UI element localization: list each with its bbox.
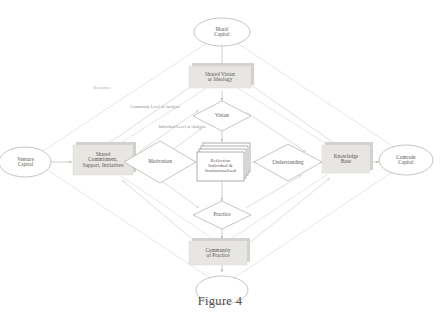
node-understanding[interactable]: Understanding xyxy=(260,156,316,169)
node-comrade-capital-line2: Capital xyxy=(396,160,415,166)
annotation-community-level: Community Level of Analysis xyxy=(124,105,186,109)
node-practice[interactable]: Practice xyxy=(197,208,247,222)
annotation-individual-level-line1: Individual Level xyxy=(158,125,185,129)
node-comrade-capital[interactable]: Comrade Capital xyxy=(379,146,433,174)
node-community-of-practice[interactable]: Community of Practice xyxy=(189,241,247,265)
node-shared-commitment-line3: Support, Initiatives xyxy=(82,163,123,169)
node-vision[interactable]: Vision xyxy=(197,109,247,123)
node-motivation-label: Motivation xyxy=(148,159,172,165)
annotation-individual-level-line2: of Analysis xyxy=(187,125,206,129)
diagram-canvas: Moral Capital Shared Vision or Ideology … xyxy=(0,0,440,326)
node-reflection-line3: Institutionalized xyxy=(205,169,236,174)
annotation-resources-label: Resources xyxy=(94,86,111,90)
annotation-community-level-line1: Community Level xyxy=(130,105,160,109)
node-venture-capital[interactable]: Venture Capital xyxy=(0,148,51,176)
node-knowledge-base-line2: Base xyxy=(334,159,358,165)
node-understanding-label: Understanding xyxy=(272,160,303,166)
node-reflection[interactable]: Reflection Individual & Institutionalize… xyxy=(197,152,244,181)
node-venture-capital-line2: Capital xyxy=(17,162,34,168)
node-knowledge-base[interactable]: Knowledge Base xyxy=(322,145,370,173)
annotation-individual-level: Individual Level of Analysis xyxy=(152,125,212,129)
figure-caption: Figure 4 xyxy=(0,294,440,309)
node-shared-commitment[interactable]: Shared Commitment, Support, Initiatives xyxy=(73,145,133,175)
node-shared-vision[interactable]: Shared Vision or Ideology xyxy=(189,66,251,88)
annotation-resources: Resources xyxy=(78,86,126,90)
annotation-community-level-line2: of Analysis xyxy=(161,105,180,109)
node-practice-label: Practice xyxy=(213,212,230,218)
node-vision-label: Vision xyxy=(215,113,229,119)
node-motivation[interactable]: Motivation xyxy=(135,155,185,169)
node-moral-capital[interactable]: Moral Capital xyxy=(194,18,250,46)
node-moral-capital-line2: Capital xyxy=(214,32,229,38)
node-community-of-practice-line2: of Practice xyxy=(205,253,230,259)
node-shared-vision-line2: or Ideology xyxy=(205,77,235,83)
